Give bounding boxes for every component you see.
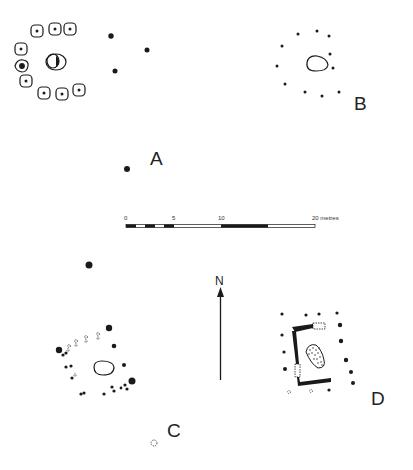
structure-c [56,262,157,447]
structure-b [276,30,341,98]
isolated-postholes-a [108,33,149,172]
north-arrow-icon [217,287,224,380]
structure-label-d: D [371,389,385,408]
scale-tick-20-metres: 20 metres [312,215,339,221]
structure-label-b: B [354,94,367,113]
north-label: N [215,275,224,287]
structure-label-c: C [167,421,181,440]
structure-label-a: A [150,149,163,168]
structure-d [280,311,355,393]
scale-tick-5: 5 [172,215,175,221]
site-plan [0,0,413,470]
structure-a-postholes [15,23,85,100]
scale-tick-10: 10 [218,215,225,221]
scale-tick-0: 0 [124,215,127,221]
scale-bar [126,225,315,228]
